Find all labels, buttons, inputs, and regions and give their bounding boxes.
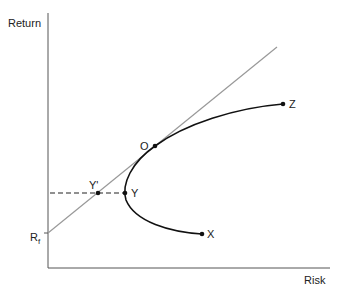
risk-free-main: R [30,231,38,243]
point-y-dot [123,191,128,196]
point-x-label: X [207,228,215,240]
point-x-dot [200,232,205,237]
point-y-prime-dot [96,191,101,196]
y-axis-label: Return [8,17,41,29]
point-y-label: Y [131,187,139,199]
x-axis-label: Risk [304,274,326,286]
point-y-prime-label: Y' [89,179,98,191]
point-o-label: O [140,140,149,152]
point-o-dot [153,144,158,149]
frontier-curve [125,104,283,234]
point-z-dot [281,102,286,107]
risk-free-label: Rf [30,231,41,246]
risk-free-subscript: f [38,237,41,246]
point-z-label: Z [289,98,296,110]
diagram-canvas: Return Risk Rf O Z X Y Y' [0,0,346,296]
